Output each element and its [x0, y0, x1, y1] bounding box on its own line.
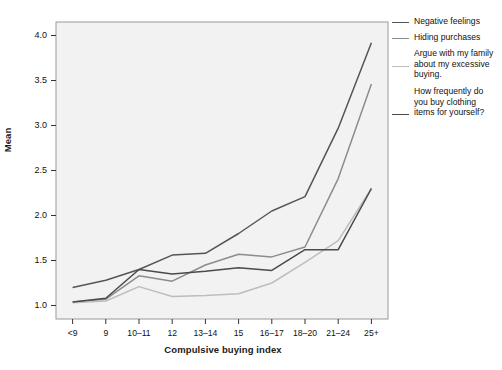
y-axis-title: Mean — [2, 110, 13, 170]
x-tick-label: 9 — [103, 328, 108, 338]
y-tick-label: 1.0 — [17, 300, 47, 310]
x-axis-title: Compulsive buying index — [58, 344, 388, 355]
y-tick-label: 4.0 — [17, 30, 47, 40]
y-tick-label: 3.0 — [17, 120, 47, 130]
y-tick-label: 2.0 — [17, 210, 47, 220]
legend-color-swatch — [392, 114, 409, 115]
x-tick-label: 13–14 — [193, 328, 217, 338]
y-tick-label: 1.5 — [17, 255, 47, 265]
x-tick-label: 10–11 — [127, 328, 150, 338]
legend-color-swatch — [392, 22, 409, 23]
legend-label: Hiding purchases — [414, 32, 498, 43]
x-tick-label: 18–20 — [293, 328, 317, 338]
x-tick-label: 16–17 — [260, 328, 284, 338]
chart-figure: 1.01.52.02.53.03.54.0 <9910–111213–14151… — [0, 0, 502, 370]
x-tick-label: 21–24 — [326, 328, 350, 338]
x-tick-label: 25+ — [364, 328, 379, 338]
legend-label: Negative feelings — [414, 16, 498, 27]
x-tick-label: 12 — [167, 328, 177, 338]
legend-color-swatch — [392, 38, 409, 39]
legend-color-swatch — [392, 66, 409, 67]
legend-label: How frequently do you buy clothing items… — [414, 86, 498, 118]
legend-label: Argue with my family about my excessive … — [414, 48, 498, 80]
x-tick-label: <9 — [68, 328, 78, 338]
y-tick-label: 2.5 — [17, 165, 47, 175]
x-tick-label: 15 — [234, 328, 244, 338]
y-tick-label: 3.5 — [17, 75, 47, 85]
plot-background — [56, 22, 388, 319]
